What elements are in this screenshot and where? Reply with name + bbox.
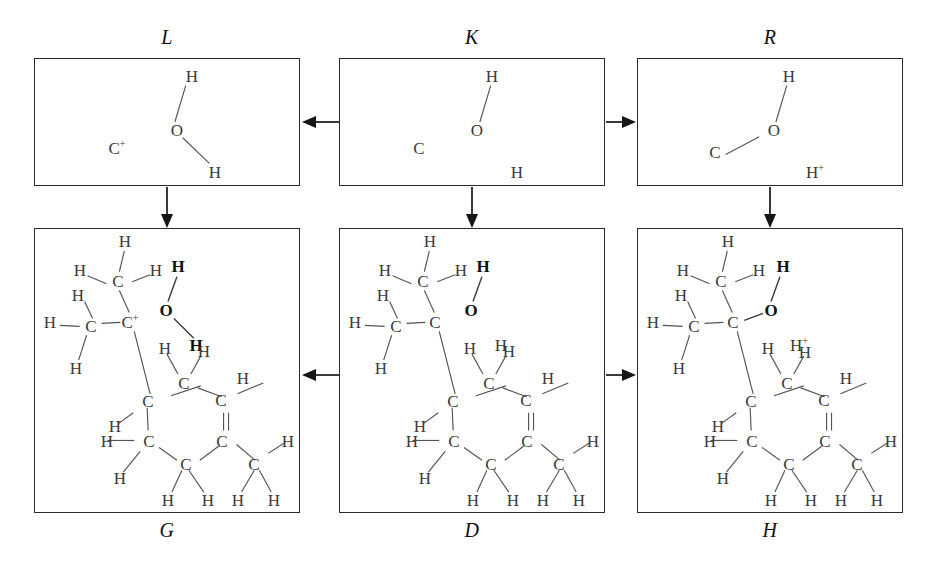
- arrow-layer: [0, 0, 937, 562]
- arrow-d-to-g: [302, 369, 339, 381]
- arrow-k-to-r: [606, 116, 636, 128]
- diagram-canvas: L H O H C+ K H O H C R H O H+ C: [0, 0, 937, 562]
- arrow-r-to-h: [764, 187, 776, 228]
- arrow-k-to-d: [466, 187, 478, 228]
- arrow-d-to-h: [606, 369, 636, 381]
- arrow-k-to-l: [302, 116, 339, 128]
- arrow-l-to-g: [161, 187, 173, 228]
